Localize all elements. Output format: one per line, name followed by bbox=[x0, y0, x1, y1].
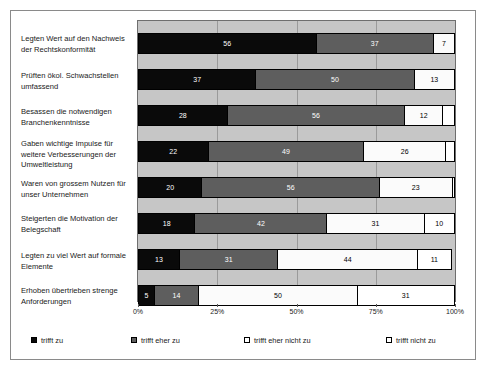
bar-value-label: 12 bbox=[420, 112, 428, 119]
bar-value-label: 7 bbox=[442, 40, 446, 47]
legend-label: trifft zu bbox=[41, 336, 63, 345]
bar-value-label: 18 bbox=[163, 220, 171, 227]
bar-value-label: 50 bbox=[274, 292, 282, 299]
chart-frame: Legten Wert auf den Nachweis der Rechtsk… bbox=[10, 10, 476, 360]
bar-segment[interactable]: 31 bbox=[326, 213, 423, 234]
bar-row[interactable]: 375013 bbox=[138, 69, 455, 90]
x-axis: 0%25%50%75%100% bbox=[137, 304, 456, 320]
bar-row[interactable]: 285612 bbox=[138, 105, 455, 126]
bar-value-label: 13 bbox=[430, 76, 438, 83]
bar-segment[interactable]: 13 bbox=[138, 249, 179, 270]
legend-item[interactable]: trifft eher zu bbox=[131, 336, 180, 345]
category-label: Prüften ökol. Schwachstellen umfassend bbox=[21, 71, 137, 92]
bar-value-label: 31 bbox=[371, 220, 379, 227]
x-tick-mark bbox=[138, 304, 139, 307]
category-label: Gaben wichtige Impulse für weitere Verbe… bbox=[21, 139, 137, 171]
category-label: Waren von grossem Nutzen für unser Unter… bbox=[21, 179, 137, 200]
x-tick-label: 0% bbox=[133, 308, 143, 315]
bar-value-label: 31 bbox=[225, 256, 233, 263]
bar-segment[interactable]: 50 bbox=[255, 69, 414, 90]
bar-segment[interactable]: 44 bbox=[277, 249, 416, 270]
x-tick-mark bbox=[297, 304, 298, 307]
bar-row[interactable]: 224926 bbox=[138, 141, 455, 162]
bar-value-label: 56 bbox=[223, 40, 231, 47]
bar-value-label: 22 bbox=[169, 148, 177, 155]
category-label: Legten zu viel Wert auf formale Elemente bbox=[21, 251, 137, 272]
category-label: Besassen die notwendigen Branchenkenntni… bbox=[21, 107, 137, 128]
bar-segment[interactable]: 12 bbox=[404, 105, 442, 126]
bar-segment[interactable]: 18 bbox=[138, 213, 194, 234]
bar-segment[interactable]: 37 bbox=[138, 69, 255, 90]
category-label: Erhoben übertrieben strenge Anforderunge… bbox=[21, 286, 137, 307]
bar-segment[interactable]: 49 bbox=[208, 141, 363, 162]
bar-row[interactable]: 13314411 bbox=[138, 249, 455, 270]
x-tick-label: 100% bbox=[446, 308, 464, 315]
legend-item[interactable]: trifft nicht zu bbox=[386, 336, 436, 345]
legend-item[interactable]: trifft eher nicht zu bbox=[244, 336, 311, 345]
bar-segment[interactable]: 28 bbox=[138, 105, 227, 126]
category-label: Legten Wert auf den Nachweis der Rechtsk… bbox=[21, 34, 137, 55]
bar-segment[interactable]: 26 bbox=[363, 141, 445, 162]
bar-value-label: 26 bbox=[401, 148, 409, 155]
bar-value-label: 37 bbox=[371, 40, 379, 47]
bar-segment[interactable]: 56 bbox=[201, 177, 379, 198]
bar-segment[interactable]: 11 bbox=[417, 249, 452, 270]
bar-row[interactable]: 205623 bbox=[138, 177, 455, 198]
bar-segment[interactable]: 56 bbox=[138, 33, 316, 54]
bar-segment[interactable]: 22 bbox=[138, 141, 208, 162]
bar-segment[interactable]: 13 bbox=[414, 69, 455, 90]
bar-segment[interactable] bbox=[442, 105, 455, 126]
legend-swatch-icon bbox=[244, 337, 250, 343]
x-tick-mark bbox=[376, 304, 377, 307]
x-tick-mark bbox=[217, 304, 218, 307]
bar-value-label: 20 bbox=[166, 184, 174, 191]
legend-swatch-icon bbox=[386, 337, 392, 343]
bar-segment[interactable]: 31 bbox=[179, 249, 277, 270]
plot-area: 5637737501328561222492620562318423110133… bbox=[137, 20, 456, 302]
bar-segment[interactable] bbox=[452, 177, 455, 198]
legend-label: trifft eher zu bbox=[141, 336, 180, 345]
x-tick-label: 25% bbox=[210, 308, 224, 315]
legend-label: trifft nicht zu bbox=[396, 336, 436, 345]
bar-value-label: 14 bbox=[173, 292, 181, 299]
bar-value-label: 13 bbox=[155, 256, 163, 263]
bar-value-label: 49 bbox=[282, 148, 290, 155]
legend-label: trifft eher nicht zu bbox=[254, 336, 311, 345]
bar-value-label: 50 bbox=[331, 76, 339, 83]
bar-segment[interactable]: 14 bbox=[154, 285, 198, 306]
bar-value-label: 31 bbox=[402, 292, 410, 299]
bar-segment[interactable]: 56 bbox=[227, 105, 405, 126]
bar-row[interactable]: 5145031 bbox=[138, 285, 455, 306]
bar-value-label: 44 bbox=[344, 256, 352, 263]
category-axis-labels: Legten Wert auf den Nachweis der Rechtsk… bbox=[21, 20, 137, 302]
stacked-bar-rows: 5637737501328561222492620562318423110133… bbox=[138, 21, 455, 301]
bar-segment[interactable]: 5 bbox=[138, 285, 154, 306]
legend-swatch-icon bbox=[31, 337, 37, 343]
bar-value-label: 37 bbox=[193, 76, 201, 83]
bar-segment[interactable]: 10 bbox=[424, 213, 455, 234]
bar-segment[interactable]: 20 bbox=[138, 177, 201, 198]
chart-legend: trifft zutrifft eher zutrifft eher nicht… bbox=[31, 333, 461, 347]
bar-segment[interactable]: 50 bbox=[198, 285, 357, 306]
bar-value-label: 42 bbox=[257, 220, 265, 227]
legend-swatch-icon bbox=[131, 337, 137, 343]
bar-row[interactable]: 56377 bbox=[138, 33, 455, 54]
bar-value-label: 23 bbox=[412, 184, 420, 191]
legend-item[interactable]: trifft zu bbox=[31, 336, 63, 345]
bar-value-label: 56 bbox=[287, 184, 295, 191]
bar-segment[interactable]: 31 bbox=[357, 285, 455, 306]
bar-value-label: 11 bbox=[431, 256, 438, 263]
x-tick-label: 75% bbox=[369, 308, 383, 315]
category-label: Steigerten die Motivation der Belegschaf… bbox=[21, 214, 137, 235]
bar-value-label: 10 bbox=[435, 220, 443, 227]
bar-row[interactable]: 18423110 bbox=[138, 213, 455, 234]
x-tick-mark bbox=[455, 304, 456, 307]
bar-segment[interactable]: 7 bbox=[433, 33, 455, 54]
x-tick-label: 50% bbox=[289, 308, 303, 315]
bar-value-label: 56 bbox=[312, 112, 320, 119]
bar-value-label: 28 bbox=[179, 112, 187, 119]
bar-segment[interactable]: 42 bbox=[194, 213, 326, 234]
bar-segment[interactable]: 37 bbox=[316, 33, 433, 54]
bar-segment[interactable]: 23 bbox=[379, 177, 452, 198]
bar-segment[interactable] bbox=[445, 141, 455, 162]
